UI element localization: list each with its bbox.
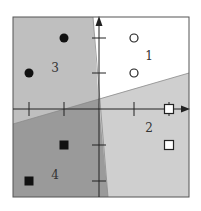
open-square-icon — [165, 141, 174, 150]
open-square-icon — [165, 105, 174, 114]
decision-region-diagram: 1 2 3 4 — [0, 0, 201, 211]
filled-square-icon — [60, 141, 69, 150]
filled-circle-icon — [25, 69, 34, 78]
region-label-4: 4 — [51, 168, 59, 182]
region-label-1: 1 — [145, 49, 153, 63]
open-circle-icon — [130, 69, 138, 77]
open-circle-icon — [130, 34, 138, 42]
region-label-2: 2 — [145, 121, 153, 135]
regions — [13, 17, 189, 197]
region-label-3: 3 — [51, 61, 59, 75]
filled-square-icon — [25, 177, 34, 186]
filled-circle-icon — [60, 34, 69, 43]
